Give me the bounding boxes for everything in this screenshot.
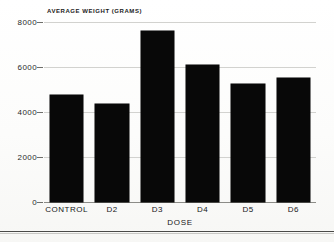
y-axis-tick-labels: 02000400060008000 — [6, 22, 37, 202]
x-axis-tick-label: CONTROL — [45, 205, 88, 214]
gridline — [44, 202, 316, 203]
page-rule-shadow — [0, 233, 334, 234]
x-axis-tick-label: D6 — [288, 205, 299, 214]
x-axis-title: DOSE — [44, 218, 316, 227]
y-axis-tick — [37, 22, 43, 23]
bar — [277, 78, 310, 202]
x-axis-tick-label: D2 — [106, 205, 117, 214]
y-axis-tick — [37, 112, 43, 113]
x-axis-tick-label: D5 — [242, 205, 253, 214]
y-axis-title: AVERAGE WEIGHT (GRAMS) — [47, 8, 142, 14]
y-axis-tick-label: 4000 — [18, 108, 37, 117]
bar — [141, 31, 174, 202]
bar — [50, 95, 83, 202]
y-axis-tick-label: 2000 — [18, 153, 37, 162]
x-axis-tick-label: D3 — [152, 205, 163, 214]
bar — [186, 65, 219, 202]
y-axis-tick — [37, 157, 43, 158]
bar-series — [44, 22, 316, 202]
page-rule — [0, 231, 334, 232]
y-axis-tick — [37, 202, 43, 203]
y-axis-tick-label: 8000 — [18, 18, 37, 27]
x-axis-tick-label: D4 — [197, 205, 208, 214]
bar-chart-figure: AVERAGE WEIGHT (GRAMS) 02000400060008000… — [0, 0, 334, 242]
x-axis-tick-labels: CONTROLD2D3D4D5D6 — [44, 205, 316, 217]
y-axis-tick-label: 6000 — [18, 63, 37, 72]
bar — [95, 104, 128, 202]
plot-area — [44, 22, 316, 202]
bar — [231, 84, 264, 202]
y-axis-tick — [37, 67, 43, 68]
